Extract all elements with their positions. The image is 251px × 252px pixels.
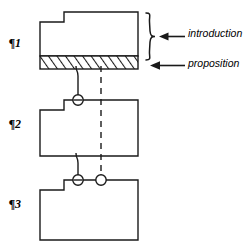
connector-dashed-p1-p3-endpoint-circle [96, 175, 106, 185]
paragraph-2-block [40, 100, 138, 156]
paragraph-3-outline [40, 180, 138, 240]
paragraph-1-block [40, 12, 138, 69]
proposition-arrow-head-icon [150, 61, 160, 69]
connector-solid-p1-p2 [73, 66, 83, 105]
proposition-arrow [150, 61, 185, 69]
introduction-arrow-head-icon [159, 33, 169, 41]
paragraph-label-3: ¶3 [9, 197, 21, 212]
annotation-label-proposition: proposition [188, 57, 239, 69]
paragraph-label-1: ¶1 [9, 36, 21, 51]
introduction-brace [146, 13, 155, 60]
connector-solid-p2-p3 [73, 153, 83, 185]
curly-brace-icon [146, 13, 155, 60]
annotation-label-introduction: introduction [188, 27, 242, 39]
paragraph-1-hatched-band [40, 56, 138, 69]
paragraph-1-outline [40, 12, 138, 56]
paragraph-structure-diagram: ¶1 ¶2 ¶3 introduction proposition [0, 0, 251, 252]
paragraph-3-block [40, 180, 138, 240]
introduction-arrow [159, 33, 185, 41]
paragraph-2-outline [40, 100, 138, 156]
paragraph-label-2: ¶2 [9, 117, 21, 132]
